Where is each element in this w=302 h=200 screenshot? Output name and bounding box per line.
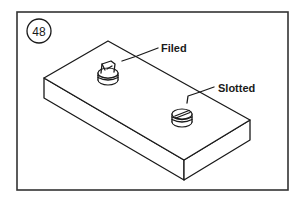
filed-label: Filed [161, 42, 187, 54]
block [44, 41, 250, 180]
slotted-screw [172, 109, 192, 127]
slotted-label: Slotted [218, 82, 255, 94]
diagram-canvas: 48 Filed Slott [0, 0, 302, 200]
figure-number-badge: 48 [27, 19, 51, 43]
figure-number: 48 [32, 25, 46, 39]
